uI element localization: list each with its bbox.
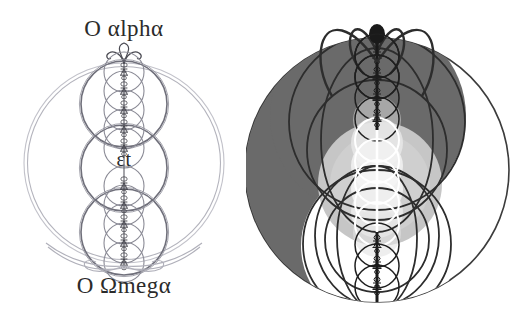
label-alpha: O αlphα xyxy=(0,16,248,42)
figure-root: O αlphα εt O Ωmegα xyxy=(0,0,514,326)
label-omega: O Ωmegα xyxy=(0,273,248,299)
label-et: εt xyxy=(0,148,248,170)
left-figure: O αlphα εt O Ωmegα xyxy=(0,0,248,326)
right-figure-svg xyxy=(246,0,514,326)
right-figure xyxy=(246,0,514,326)
